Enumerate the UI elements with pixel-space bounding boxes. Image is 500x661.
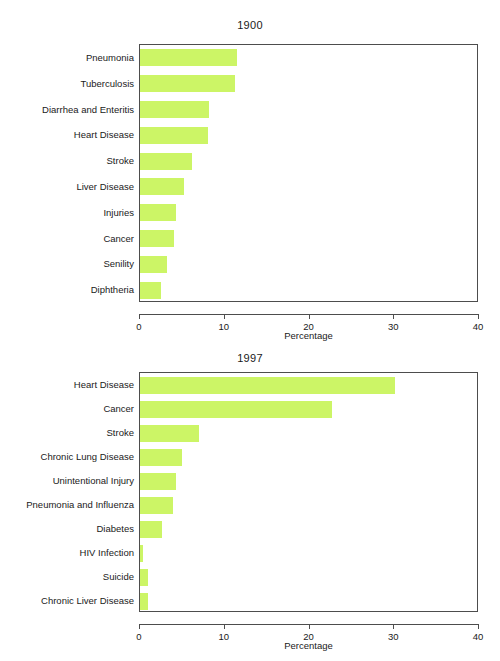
category-label: Diabetes bbox=[0, 523, 134, 534]
bar bbox=[140, 545, 143, 562]
category-label: Injuries bbox=[0, 206, 134, 217]
bar bbox=[140, 127, 208, 144]
category-label: Stroke bbox=[0, 155, 134, 166]
bar bbox=[140, 230, 174, 247]
plot-area-1900 bbox=[139, 44, 478, 302]
x-tick bbox=[224, 624, 225, 629]
category-label: HIV Infection bbox=[0, 547, 134, 558]
chart-1997: 1997 Heart DiseaseCancerStrokeChronic Lu… bbox=[0, 340, 500, 661]
category-label: Senility bbox=[0, 258, 134, 269]
bar bbox=[140, 75, 235, 92]
category-label: Pneumonia and Influenza bbox=[0, 499, 134, 510]
bar bbox=[140, 101, 209, 118]
bars-layer-1900 bbox=[140, 45, 477, 301]
chart-title-1997: 1997 bbox=[0, 352, 500, 364]
x-axis-1997: 010203040 bbox=[139, 624, 478, 625]
bar bbox=[140, 569, 148, 586]
category-axis-1900: PneumoniaTuberculosisDiarrhea and Enteri… bbox=[0, 44, 134, 302]
category-label: Cancer bbox=[0, 403, 134, 414]
bar bbox=[140, 49, 237, 66]
category-label: Unintentional Injury bbox=[0, 475, 134, 486]
x-tick bbox=[139, 314, 140, 319]
category-label: Suicide bbox=[0, 571, 134, 582]
category-label: Chronic Liver Disease bbox=[0, 595, 134, 606]
bar bbox=[140, 425, 199, 442]
category-label: Chronic Lung Disease bbox=[0, 451, 134, 462]
plot-area-1997 bbox=[139, 372, 478, 612]
x-tick bbox=[224, 314, 225, 319]
bar bbox=[140, 178, 184, 195]
bar bbox=[140, 204, 176, 221]
x-tick bbox=[309, 314, 310, 319]
chart-title-1900: 1900 bbox=[0, 19, 500, 31]
category-label: Stroke bbox=[0, 427, 134, 438]
bar bbox=[140, 256, 167, 273]
bar bbox=[140, 593, 148, 610]
bars-layer-1997 bbox=[140, 373, 477, 611]
x-tick bbox=[478, 624, 479, 629]
bar bbox=[140, 521, 162, 538]
x-tick bbox=[478, 314, 479, 319]
x-tick bbox=[393, 314, 394, 319]
bar bbox=[140, 401, 332, 418]
bar bbox=[140, 497, 173, 514]
category-label: Diphtheria bbox=[0, 284, 134, 295]
category-label: Pneumonia bbox=[0, 51, 134, 62]
bar bbox=[140, 449, 182, 466]
bar bbox=[140, 377, 395, 394]
chart-1900: 1900 PneumoniaTuberculosisDiarrhea and E… bbox=[0, 0, 500, 340]
x-tick bbox=[139, 624, 140, 629]
category-label: Tuberculosis bbox=[0, 77, 134, 88]
category-label: Heart Disease bbox=[0, 129, 134, 140]
bar bbox=[140, 473, 176, 490]
bar bbox=[140, 153, 192, 170]
bar bbox=[140, 282, 161, 299]
x-tick bbox=[393, 624, 394, 629]
x-axis-1900: 010203040 bbox=[139, 314, 478, 315]
category-label: Cancer bbox=[0, 232, 134, 243]
x-axis-title-1997: Percentage bbox=[139, 640, 478, 651]
category-label: Heart Disease bbox=[0, 379, 134, 390]
category-axis-1997: Heart DiseaseCancerStrokeChronic Lung Di… bbox=[0, 372, 134, 612]
category-label: Diarrhea and Enteritis bbox=[0, 103, 134, 114]
x-tick bbox=[309, 624, 310, 629]
category-label: Liver Disease bbox=[0, 180, 134, 191]
